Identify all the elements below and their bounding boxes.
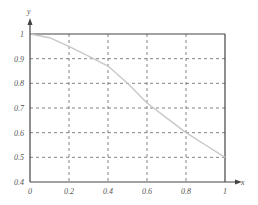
x-axis-label: x [240, 178, 245, 187]
y-tick-label: 0.4 [14, 178, 24, 187]
x-tick-label: 0.6 [142, 187, 152, 196]
x-tick-label: 0 [28, 187, 32, 196]
data-series [30, 34, 225, 157]
y-tick-label: 0.5 [14, 153, 24, 162]
y-tick-label: 1 [20, 30, 24, 39]
y-tick-label: 0.9 [14, 55, 24, 64]
line-chart: 00.20.40.60.81 0.40.50.60.70.80.91 x y [0, 0, 258, 205]
x-axis-ticks: 00.20.40.60.81 [28, 187, 227, 196]
x-tick-label: 0.4 [103, 187, 113, 196]
x-tick-label: 1 [223, 187, 227, 196]
y-tick-label: 0.7 [14, 104, 25, 113]
y-tick-label: 0.6 [14, 129, 24, 138]
axes [28, 18, 243, 185]
grid-lines [30, 34, 225, 182]
x-tick-label: 0.2 [64, 187, 74, 196]
y-axis-ticks: 0.40.50.60.70.80.91 [14, 30, 25, 187]
y-axis-label: y [26, 7, 31, 16]
x-tick-label: 0.8 [181, 187, 191, 196]
series-line [30, 34, 225, 157]
y-tick-label: 0.8 [14, 79, 24, 88]
y-axis-arrow-icon [28, 18, 33, 25]
